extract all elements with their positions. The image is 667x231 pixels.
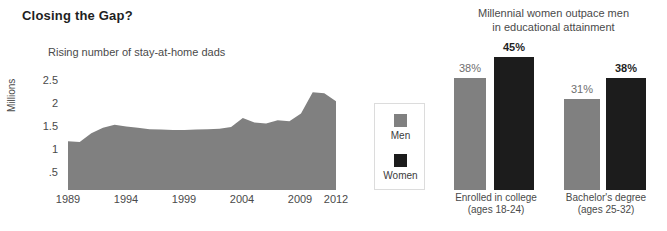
bar-chart-panel: Millennial women outpace men in educatio… xyxy=(440,0,667,231)
bar-value-men-enrolled-in-college: 38% xyxy=(459,62,481,74)
area-chart-panel: Rising number of stay-at-home dads Milli… xyxy=(0,0,360,231)
legend-swatch-women xyxy=(394,154,407,167)
legend-label-men: Men xyxy=(375,130,426,141)
x-tick: 1989 xyxy=(56,193,80,205)
bar-value-women-enrolled-in-college: 45% xyxy=(503,41,525,53)
group-label-line2: (ages 18-24) xyxy=(455,204,537,216)
x-tick: 2012 xyxy=(324,193,348,205)
bar-women-enrolled-in-college xyxy=(494,57,534,190)
infographic-root: Closing the Gap? Rising number of stay-a… xyxy=(0,0,667,231)
x-tick: 2004 xyxy=(230,193,254,205)
bar-chart-title: Millennial women outpace men in educatio… xyxy=(440,6,667,34)
bar-women-bachelors-degree xyxy=(606,78,646,190)
group-label-line2: (ages 25-32) xyxy=(566,204,646,216)
group-label-line1: Bachelor's degree xyxy=(566,192,646,204)
bar-chart-title-line1: Millennial women outpace men xyxy=(440,6,667,20)
chart-legend: Men Women xyxy=(374,103,425,190)
bar-group-label-bachelors-degree: Bachelor's degree (ages 25-32) xyxy=(566,192,646,216)
legend-swatch-men xyxy=(394,114,407,127)
group-label-line1: Enrolled in college xyxy=(455,192,537,204)
bar-value-women-bachelors-degree: 38% xyxy=(615,62,637,74)
bar-chart-title-line2: in educational attainment xyxy=(440,20,667,34)
legend-label-women: Women xyxy=(375,170,426,181)
bar-men-bachelors-degree xyxy=(564,99,600,190)
x-tick: 1994 xyxy=(114,193,138,205)
bar-value-men-bachelors-degree: 31% xyxy=(571,83,593,95)
bar-group-label-enrolled-in-college: Enrolled in college (ages 18-24) xyxy=(455,192,537,216)
x-tick: 1999 xyxy=(172,193,196,205)
legend-item-men: Men xyxy=(375,114,426,141)
bar-men-enrolled-in-college xyxy=(454,78,486,190)
x-tick: 2009 xyxy=(288,193,312,205)
legend-item-women: Women xyxy=(375,154,426,181)
